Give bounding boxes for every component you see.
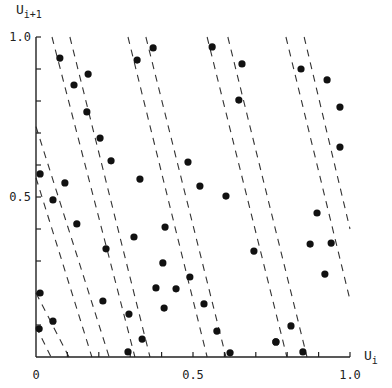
data-point [96,135,103,142]
data-point [200,300,207,307]
dashed-lattice-line [146,37,226,357]
data-point [73,220,80,227]
data-point [336,103,343,110]
data-point [49,318,56,325]
data-point [161,304,168,311]
data-point [287,322,294,329]
dashed-lattice-line [286,37,350,300]
y-tick-label: 1.0 [9,30,31,44]
dashed-lattice-line [36,127,109,357]
data-point [36,289,43,296]
x-axis-label: Ui [364,348,378,366]
data-point [235,96,242,103]
data-point [161,223,168,230]
data-point [124,348,131,355]
dashed-lattice-line [36,178,92,357]
dashed-lattice-line [304,37,350,229]
x-tick-label: 0 [32,368,39,382]
y-axis-label: Ui+1 [16,2,42,20]
data-point [213,327,220,334]
data-point [159,259,166,266]
scatter-plot: 00.51.00.51.0 [0,0,392,388]
data-point [139,335,146,342]
data-point [328,239,335,246]
data-point [186,273,193,280]
tick-marks [36,37,350,357]
data-point [107,157,114,164]
data-point [85,71,92,78]
data-point [196,183,203,190]
data-point [83,108,90,115]
data-point [250,247,257,254]
data-point [56,55,63,62]
data-point [49,196,56,203]
data-point [307,240,314,247]
data-point [222,192,229,199]
data-point [272,338,279,345]
data-point [172,285,179,292]
y-tick-label: 0.5 [9,190,31,204]
axes [36,37,350,357]
data-point [125,311,132,318]
data-point [102,245,109,252]
data-point [36,170,43,177]
data-point [209,43,216,50]
data-point [323,76,330,83]
data-point [297,65,304,72]
lattice-lines [36,37,350,357]
dashed-lattice-line [207,37,287,357]
dashed-lattice-line [70,37,150,357]
data-point [152,284,159,291]
data-point [134,56,141,63]
data-point [99,297,106,304]
data-points [36,43,344,356]
data-point [136,175,143,182]
x-tick-label: 1.0 [339,368,361,382]
data-point [226,349,233,356]
data-point [70,81,77,88]
data-point [238,60,245,67]
data-point [299,348,306,355]
dashed-lattice-line [52,37,135,357]
data-point [336,143,343,150]
data-point [184,159,191,166]
data-point [130,233,137,240]
data-point [61,179,68,186]
x-tick-label: 0.5 [182,368,204,382]
data-point [150,44,157,51]
data-point [313,209,320,216]
tick-labels: 00.51.00.51.0 [9,30,361,382]
dashed-lattice-line [228,37,307,357]
data-point [36,325,43,332]
data-point [321,271,328,278]
